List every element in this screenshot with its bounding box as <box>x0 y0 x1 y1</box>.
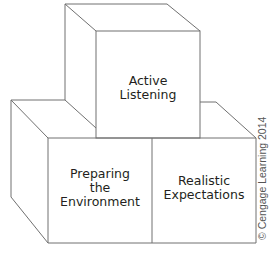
block-top-label: Active Listening <box>96 74 200 102</box>
label-line: Realistic <box>152 174 256 188</box>
block-bottom-left-label: Preparing the Environment <box>48 167 152 209</box>
label-line: Listening <box>96 88 200 102</box>
label-line: Environment <box>48 195 152 209</box>
blocks-diagram <box>0 0 276 253</box>
label-line: Preparing <box>48 167 152 181</box>
label-line: Expectations <box>152 188 256 202</box>
label-line: the <box>48 181 152 195</box>
copyright-credit: © Cengage Learning 2014 <box>256 117 268 240</box>
block-bottom-right-label: Realistic Expectations <box>152 174 256 202</box>
label-line: Active <box>96 74 200 88</box>
